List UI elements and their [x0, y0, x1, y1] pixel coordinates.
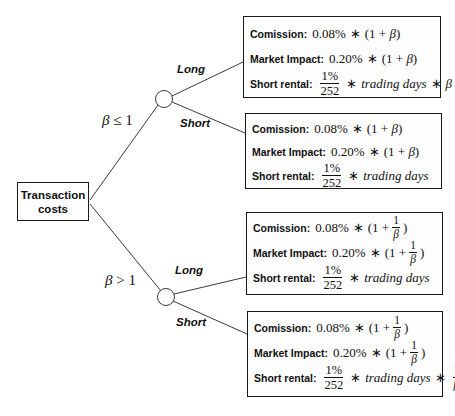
market-impact-row: Market Impact: 0.20%∗(1 + 1β) — [253, 240, 436, 265]
transaction-costs-node: Transaction costs — [17, 182, 89, 221]
market-impact-row: Market Impact: 0.20%∗(1 + β) — [250, 46, 434, 71]
decision-node-upper — [156, 91, 173, 108]
branch-label-lower-long: Long — [175, 264, 203, 276]
cost-box-upper-long: Comission: 0.08%∗(1 + β) Market Impact: … — [243, 16, 441, 98]
market-impact-row: Market Impact: 0.20%∗(1 + β) — [252, 141, 435, 163]
cost-box-upper-short: Comission: 0.08%∗(1 + β) Market Impact: … — [245, 113, 442, 189]
short-rental-row: Short rental: 1%252 ∗trading days∗β — [250, 71, 434, 96]
decision-node-lower — [158, 289, 175, 306]
short-rental-row: Short rental: 1%252 ∗trading days — [252, 163, 435, 188]
branch-label-upper-short: Short — [180, 117, 210, 129]
cost-box-lower-short: Comission: 0.08%∗(1 + 1β) Market Impact:… — [247, 311, 443, 397]
commission-row: Comission: 0.08%∗(1 + β) — [250, 21, 434, 46]
edge-lower-long — [174, 277, 246, 294]
short-rental-row: Short rental: 1%252 ∗trading days — [253, 265, 436, 290]
condition-beta-le-1: β ≤ 1 — [102, 112, 133, 129]
commission-row: Comission: 0.08%∗(1 + 1β) — [254, 315, 436, 340]
commission-row: Comission: 0.08%∗(1 + 1β) — [253, 215, 436, 240]
root-label-line2: costs — [21, 202, 86, 216]
branch-label-upper-long: Long — [177, 63, 205, 75]
cost-box-lower-long: Comission: 0.08%∗(1 + 1β) Market Impact:… — [246, 212, 443, 295]
condition-beta-gt-1: β > 1 — [105, 272, 136, 289]
short-rental-row: Short rental: 1%252 ∗trading days∗ 1β — [254, 365, 436, 390]
commission-row: Comission: 0.08%∗(1 + β) — [252, 116, 435, 141]
branch-label-lower-short: Short — [176, 316, 206, 328]
market-impact-row: Market Impact: 0.20%∗(1 + 1β) — [254, 340, 436, 365]
root-label-line1: Transaction — [21, 188, 86, 202]
